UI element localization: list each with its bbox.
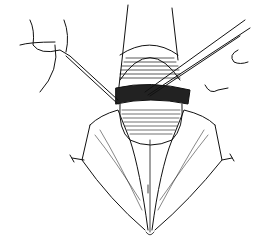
illustration-drawing: [0, 0, 259, 245]
surgical-illustration: [0, 0, 259, 245]
right-retractor: [205, 50, 248, 92]
left-retractor: [20, 20, 118, 104]
left-flap: [70, 110, 148, 230]
dome-structure: [120, 58, 180, 81]
right-flap: [152, 110, 234, 230]
